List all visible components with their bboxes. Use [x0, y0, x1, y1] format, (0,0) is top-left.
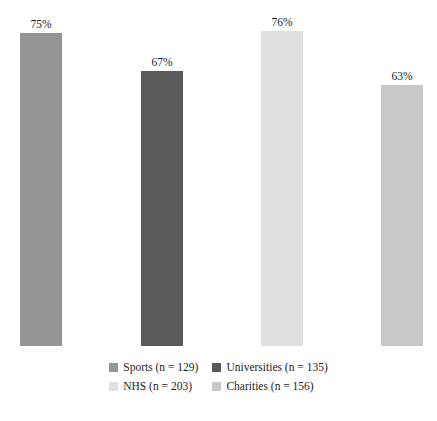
bar-group-nhs[interactable]: 76%	[261, 31, 303, 346]
bar-value-label-sports: 75%	[30, 18, 51, 31]
legend-item-sports[interactable]: Sports (n = 129)	[109, 360, 198, 374]
legend-label-charities: Charities (n = 156)	[226, 379, 313, 393]
bar-chart-plot-area: 75% 67% 76% 63%	[0, 0, 437, 352]
legend-item-nhs[interactable]: NHS (n = 203)	[109, 379, 198, 393]
bar-value-label-universities: 67%	[151, 56, 172, 69]
legend-swatch-icon-sports	[109, 363, 118, 372]
bar-group-charities[interactable]: 63%	[381, 85, 423, 346]
legend-swatch-icon-universities	[212, 363, 221, 372]
legend-swatch-icon-nhs	[109, 382, 118, 391]
legend-swatch-icon-charities	[212, 382, 221, 391]
bar-group-sports[interactable]: 75%	[20, 33, 62, 346]
legend-label-sports: Sports (n = 129)	[123, 360, 198, 374]
bar-charities[interactable]	[381, 85, 423, 346]
bar-sports[interactable]	[20, 33, 62, 346]
bar-value-label-charities: 63%	[391, 70, 412, 83]
bar-value-label-nhs: 76%	[271, 16, 292, 29]
bar-group-universities[interactable]: 67%	[141, 71, 183, 346]
legend-label-nhs: NHS (n = 203)	[123, 379, 192, 393]
chart-legend: Sports (n = 129) Universities (n = 135) …	[0, 360, 437, 393]
bar-nhs[interactable]	[261, 31, 303, 346]
legend-label-universities: Universities (n = 135)	[226, 360, 327, 374]
legend-item-universities[interactable]: Universities (n = 135)	[212, 360, 327, 374]
bar-universities[interactable]	[141, 71, 183, 346]
legend-item-charities[interactable]: Charities (n = 156)	[212, 379, 327, 393]
